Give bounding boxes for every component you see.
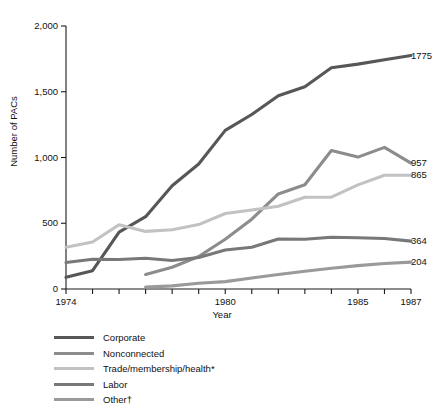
- chart-axes: [61, 26, 411, 294]
- x-axis-title: Year: [192, 309, 252, 320]
- legend-item-label: Corporate: [103, 333, 145, 343]
- x-tick-label: 1985: [335, 296, 381, 307]
- legend-swatch-icon: [54, 398, 94, 401]
- y-tick-label: 1,000: [14, 152, 58, 163]
- chart-legend: CorporateNonconnectedTrade/membership/he…: [54, 330, 384, 408]
- legend-swatch-icon: [54, 352, 94, 355]
- series-end-label: 1775: [411, 50, 432, 61]
- series-end-label: 957: [411, 157, 427, 168]
- x-tick-label: 1980: [202, 296, 248, 307]
- legend-item-label: Labor: [103, 380, 127, 390]
- legend-item-label: Nonconnected: [103, 349, 164, 359]
- legend-swatch-icon: [54, 367, 94, 370]
- legend-item-label: Trade/membership/health*: [103, 364, 215, 374]
- series-end-label: 364: [411, 235, 427, 246]
- legend-swatch-icon: [54, 383, 94, 386]
- y-tick-label: 500: [14, 217, 58, 228]
- series-line-3: [66, 237, 411, 262]
- series-line-0: [66, 56, 411, 278]
- chart-series-lines: [66, 56, 411, 288]
- legend-item: Trade/membership/health*: [54, 361, 384, 377]
- chart-figure: Number of PACs Year 05001,0001,5002,000 …: [0, 0, 439, 409]
- legend-item: Corporate: [54, 330, 384, 346]
- legend-item-label: Other†: [103, 395, 132, 405]
- series-end-label: 865: [411, 169, 427, 180]
- legend-item: Other†: [54, 392, 384, 408]
- series-line-1: [146, 147, 411, 274]
- y-tick-label: 1,500: [14, 86, 58, 97]
- series-line-4: [146, 262, 411, 287]
- y-tick-label: 2,000: [14, 20, 58, 31]
- y-tick-label: 0: [14, 283, 58, 294]
- series-end-label: 204: [411, 256, 427, 267]
- legend-item: Labor: [54, 377, 384, 393]
- x-tick-label: 1974: [43, 296, 89, 307]
- legend-swatch-icon: [54, 336, 94, 339]
- legend-item: Nonconnected: [54, 346, 384, 362]
- x-tick-label: 1987: [388, 296, 434, 307]
